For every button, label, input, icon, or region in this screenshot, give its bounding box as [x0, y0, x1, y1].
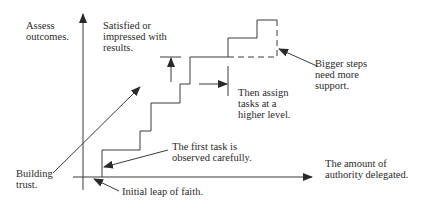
- bigger-steps-label: Bigger steps need more support.: [315, 58, 367, 91]
- bigger-steps-arrow: [279, 49, 317, 66]
- first-task-label: The first task is observed carefully.: [172, 141, 252, 163]
- then-assign-label: Then assign tasks at a higher level.: [238, 87, 290, 120]
- building-trust-arrow: [53, 87, 140, 173]
- satisfied-label: Satisfied or impressed with results.: [103, 20, 167, 53]
- initial-leap-label: Initial leap of faith.: [122, 186, 203, 197]
- delegation-trust-diagram: Assess outcomes. Satisfied or impressed …: [0, 0, 426, 209]
- initial-leap-arrow: [94, 179, 119, 191]
- x-axis-label: The amount of authority delegated.: [325, 158, 408, 180]
- building-trust-label: Building trust.: [16, 168, 53, 190]
- y-axis-label: Assess outcomes.: [26, 20, 69, 42]
- first-task-arrow: [104, 150, 168, 167]
